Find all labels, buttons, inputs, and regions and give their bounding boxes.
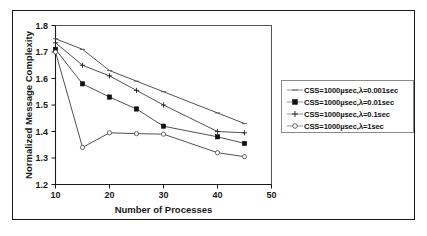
legend-item-0[interactable]: CSS=1000µsec,λ=0.001sec: [286, 84, 413, 96]
figure-root: 1.2 1.3 1.4 1.5 1.6 1.7 1.8 10 20 30 40 …: [0, 0, 427, 236]
chart-legend: CSS=1000µsec,λ=0.001sec CSS=1000µsec,λ=0…: [281, 80, 414, 133]
legend-label-0: CSS=1000µsec,λ=0.001sec: [304, 86, 398, 95]
legend-marker-filled-square-icon: [286, 97, 304, 107]
legend-marker-plus-icon: [286, 109, 304, 119]
legend-label-1: CSS=1000µsec,λ=0.01sec: [304, 98, 394, 107]
legend-label-2: CSS=1000µsec,λ=0.1sec: [304, 110, 390, 119]
legend-marker-hollow-circle-icon: [286, 121, 304, 131]
legend-marker-dash-icon: [286, 85, 304, 95]
legend-item-1[interactable]: CSS=1000µsec,λ=0.01sec: [286, 96, 413, 108]
legend-item-2[interactable]: CSS=1000µsec,λ=0.1sec: [286, 108, 413, 120]
legend-item-3[interactable]: CSS=1000µsec,λ=1sec: [286, 120, 413, 132]
legend-label-3: CSS=1000µsec,λ=1sec: [304, 122, 384, 131]
